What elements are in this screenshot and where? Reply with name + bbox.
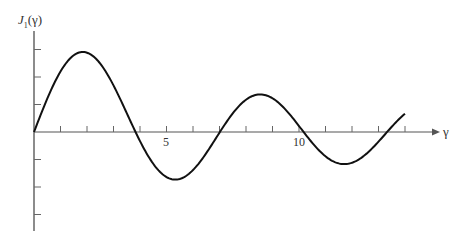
x-tick-label-10: 10: [293, 135, 305, 150]
x-axis-arrow-icon: [432, 129, 440, 136]
bessel-plot: [0, 0, 458, 242]
y-label-arg: (γ): [28, 12, 42, 27]
x-tick-label-5: 5: [163, 135, 169, 150]
y-axis-label: J1(γ): [18, 12, 42, 30]
x-axis-label: γ: [443, 124, 449, 140]
x-ticks: [61, 126, 406, 132]
bessel-curve: [34, 52, 405, 180]
